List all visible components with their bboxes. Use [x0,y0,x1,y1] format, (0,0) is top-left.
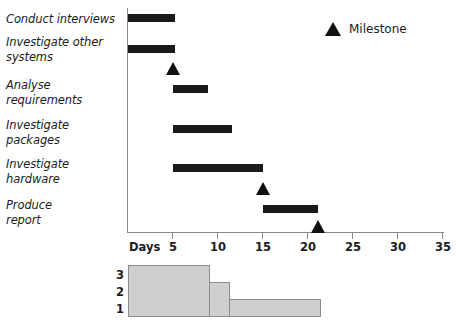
x-tick-30 [397,233,398,239]
milestone-triangle-icon [325,22,341,36]
x-tick-label-5: 5 [169,240,177,254]
task-label-investigate-packages: Investigate packages [6,118,122,147]
gantt-bar-conduct-interviews [128,14,175,22]
histogram-y-label-1: 1 [110,302,124,316]
x-tick-label-20: 20 [300,240,316,254]
histogram-step-level-2 [209,282,230,317]
milestone-marker-day-5 [166,62,180,75]
legend-label-milestone: Milestone [349,22,407,36]
legend: Milestone [325,22,407,36]
x-tick-25 [352,233,353,239]
x-tick-10 [217,233,218,239]
x-tick-label-35: 35 [435,240,451,254]
gantt-bar-produce-report [263,205,318,213]
x-tick-15 [262,233,263,239]
x-tick-label-15: 15 [255,240,271,254]
histogram-step-level-3 [128,265,210,317]
gantt-chart-figure: Conduct interviews Investigate other sys… [0,0,456,327]
x-tick-label-30: 30 [390,240,406,254]
task-label-investigate-hardware: Investigate hardware [6,157,122,186]
gantt-bar-analyse-requirements [173,85,208,93]
task-label-analyse-requirements: Analyse requirements [6,78,122,107]
x-axis-title: Days [129,240,160,254]
x-tick-5 [172,233,173,239]
task-label-produce-report: Produce report [6,198,122,227]
x-tick-label-25: 25 [345,240,361,254]
x-tick-20 [307,233,308,239]
gantt-bar-investigate-other-systems [128,45,175,53]
x-tick-label-10: 10 [210,240,226,254]
task-label-conduct-interviews: Conduct interviews [6,12,122,27]
histogram-step-level-1 [229,299,321,317]
histogram-y-label-3: 3 [110,268,124,282]
milestone-marker-day-15 [256,182,270,195]
x-tick-35 [442,233,443,239]
histogram-y-label-2: 2 [110,285,124,299]
task-label-investigate-other-systems: Investigate other systems [6,35,122,64]
gantt-bar-investigate-packages [173,125,232,133]
gantt-vertical-axis [127,8,128,233]
gantt-bar-investigate-hardware [173,164,263,172]
milestone-marker-day-21 [311,220,325,233]
